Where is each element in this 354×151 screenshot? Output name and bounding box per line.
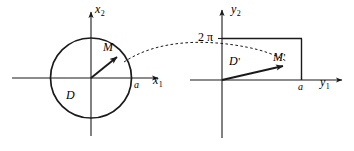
tick-label-a-right: a — [298, 82, 303, 92]
math-diagram: x2 x1 a D M y2 y1 2 π a D' M' — [0, 0, 354, 151]
point-label-M-prime: M' — [273, 51, 285, 63]
mapping-arc — [124, 42, 286, 62]
diagram-canvas — [0, 0, 354, 151]
vector-to-M — [91, 57, 117, 78]
y2-axis-label: y2 — [231, 3, 241, 18]
radius-tick-label-a: a — [134, 80, 139, 90]
x2-axis-label: x2 — [95, 3, 105, 18]
region-label-D: D — [66, 89, 75, 101]
left-panel-group — [12, 12, 158, 136]
x1-axis-label: x1 — [153, 74, 163, 89]
region-label-D-prime: D' — [229, 55, 240, 67]
tick-label-2pi: 2 π — [198, 31, 213, 43]
vector-to-M-prime — [222, 66, 283, 80]
point-label-M: M — [103, 41, 113, 53]
y1-axis-label: y1 — [320, 76, 330, 91]
